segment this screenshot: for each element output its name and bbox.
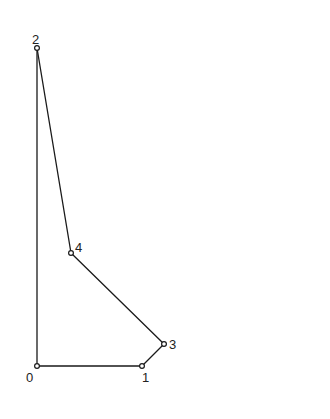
node-label-4: 4 (75, 240, 82, 255)
node-3 (162, 342, 167, 347)
node-4 (69, 251, 74, 256)
labels-group: 01234 (26, 32, 176, 385)
node-1 (140, 364, 145, 369)
node-0 (35, 364, 40, 369)
edges-group (37, 48, 164, 366)
edge-3-1 (142, 344, 164, 366)
edge-4-3 (71, 253, 164, 344)
node-label-3: 3 (169, 337, 176, 352)
node-label-2: 2 (32, 32, 39, 47)
linkage-diagram: 01234 (0, 0, 330, 419)
nodes-group (35, 46, 167, 369)
node-label-0: 0 (26, 370, 33, 385)
edge-2-4 (37, 48, 71, 253)
node-label-1: 1 (142, 370, 149, 385)
